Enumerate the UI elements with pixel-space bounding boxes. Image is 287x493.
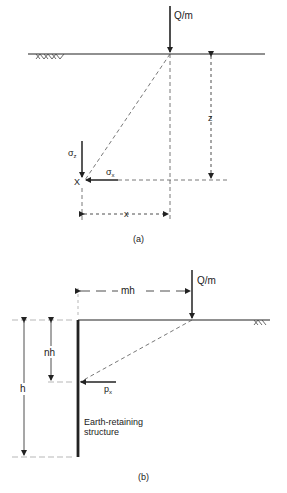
figure-a: Q/m z x σz σx X (a) <box>28 6 265 244</box>
load-label-b: Q/m <box>197 275 216 286</box>
structure-label-line2: structure <box>84 427 119 437</box>
x-label: x <box>124 209 129 219</box>
sigma-z-label: σz <box>68 148 77 159</box>
ground-hatch-icon-b <box>254 320 266 325</box>
point-x-label: X <box>74 177 80 187</box>
diagram-canvas: Q/m z x σz σx X (a) <box>0 0 287 493</box>
load-label-a: Q/m <box>174 10 193 21</box>
ground-hatch-icon <box>36 54 64 59</box>
caption-b: (b) <box>138 472 149 482</box>
z-label: z <box>208 113 213 123</box>
caption-a: (a) <box>133 234 144 244</box>
px-label: px <box>104 384 112 395</box>
sigma-x-label: σx <box>106 167 115 178</box>
h-label: h <box>20 383 26 394</box>
figure-b: Q/m mh nh h px Earth-retaining structure… <box>12 270 270 482</box>
mh-label: mh <box>121 285 135 296</box>
dashed-radial-line <box>85 54 170 180</box>
dashed-radial-line-b <box>80 320 192 382</box>
nh-label: nh <box>44 347 55 358</box>
structure-label-line1: Earth-retaining <box>84 417 143 427</box>
